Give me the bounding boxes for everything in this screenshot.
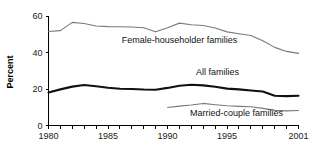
y-axis-group: 0204060: [32, 11, 48, 131]
series-label: Married-couple families: [190, 108, 284, 118]
y-tick-label: 60: [32, 11, 42, 21]
x-axis-group: 19801985199019952001: [38, 126, 308, 141]
series-label: Female-householder families: [122, 35, 238, 45]
series-line-all-families: [49, 85, 299, 96]
line-chart: 0204060 19801985199019952001 Percent Fem…: [0, 0, 317, 154]
x-tick-label: 1995: [217, 131, 237, 141]
y-tick-label: 0: [37, 121, 42, 131]
y-tick-group: 0204060: [32, 11, 48, 131]
x-tick-label: 2001: [288, 131, 308, 141]
x-tick-label: 1980: [38, 131, 58, 141]
y-tick-label: 20: [32, 84, 42, 94]
x-tick-label: 1985: [98, 131, 118, 141]
x-tick-group: 19801985199019952001: [38, 126, 308, 141]
series-label-group: Female-householder familiesAll familiesM…: [122, 35, 284, 117]
y-axis-title: Percent: [5, 55, 15, 88]
chart-container: 0204060 19801985199019952001 Percent Fem…: [0, 0, 317, 154]
y-tick-label: 40: [32, 48, 42, 58]
series-label: All families: [196, 67, 240, 77]
x-tick-label: 1990: [158, 131, 178, 141]
